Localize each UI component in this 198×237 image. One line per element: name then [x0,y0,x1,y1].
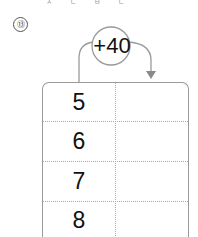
operation-label: +40 [91,32,133,60]
table-row: 8 [43,201,188,237]
input-cell: 6 [43,122,115,161]
table-row: 6 [43,122,188,161]
input-cell: 7 [43,162,115,201]
answer-cell[interactable] [115,122,188,161]
answer-cell[interactable] [115,201,188,237]
table-row: 5 [43,83,188,122]
input-cell: 5 [43,83,115,122]
answer-cell[interactable] [115,162,188,201]
table-row: 7 [43,162,188,201]
input-cell: 8 [43,201,115,237]
input-output-table: 5 6 7 8 [42,82,189,237]
arrow-down-icon [146,71,156,79]
answer-cell[interactable] [115,83,188,122]
